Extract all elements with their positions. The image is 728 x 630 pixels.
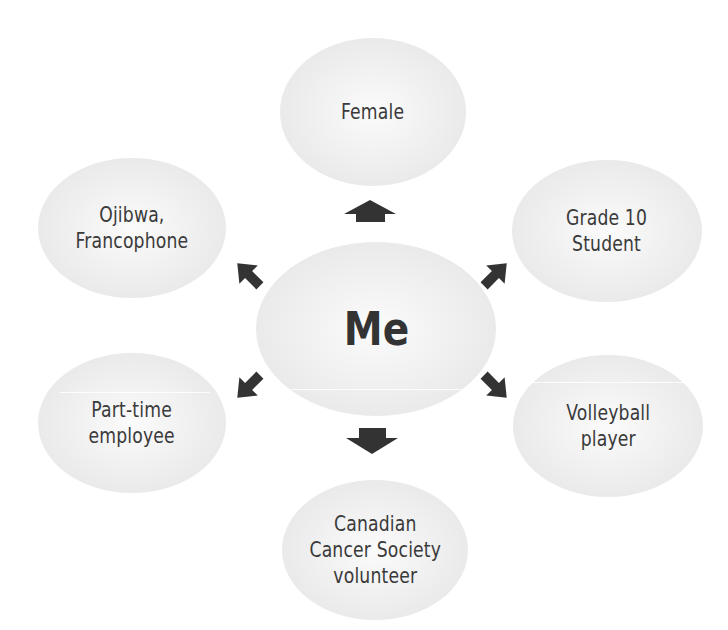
arrow-up-right-icon xyxy=(475,254,516,295)
arrow-up-left-icon xyxy=(228,254,269,295)
arrow-down-left-icon xyxy=(228,366,269,407)
arrow-down-right-icon xyxy=(475,366,516,407)
arrow-up-icon xyxy=(344,200,396,222)
arrow-down-icon xyxy=(346,428,398,454)
arrows-layer xyxy=(0,0,728,630)
